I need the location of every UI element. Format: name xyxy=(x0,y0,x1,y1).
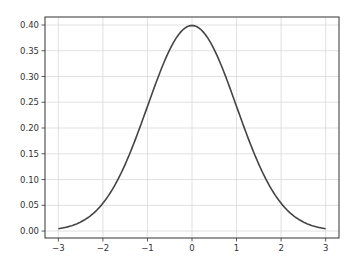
x-tick-label: 3 xyxy=(323,243,328,253)
y-tick-label: 0.35 xyxy=(20,46,39,56)
y-tick-label: 0.15 xyxy=(20,149,39,159)
x-tick-label: −1 xyxy=(141,243,154,253)
y-tick-label: 0.10 xyxy=(20,175,39,185)
x-tick-label: −2 xyxy=(97,243,110,253)
y-tick-label: 0.00 xyxy=(20,226,39,236)
y-tick-label: 0.30 xyxy=(20,72,39,82)
y-tick-label: 0.25 xyxy=(20,97,39,107)
y-tick-label: 0.40 xyxy=(20,20,39,30)
normal-distribution-chart: −3−2−10123 0.000.050.100.150.200.250.300… xyxy=(0,0,357,263)
y-tick-label: 0.05 xyxy=(20,200,39,210)
x-tick-label: 2 xyxy=(278,243,283,253)
x-axis-ticks: −3−2−10123 xyxy=(52,238,328,253)
x-tick-label: 0 xyxy=(189,243,194,253)
x-tick-label: 1 xyxy=(234,243,239,253)
x-tick-label: −3 xyxy=(52,243,65,253)
y-tick-label: 0.20 xyxy=(20,123,39,133)
grid-lines xyxy=(45,17,339,238)
y-axis-ticks: 0.000.050.100.150.200.250.300.350.40 xyxy=(20,20,45,236)
